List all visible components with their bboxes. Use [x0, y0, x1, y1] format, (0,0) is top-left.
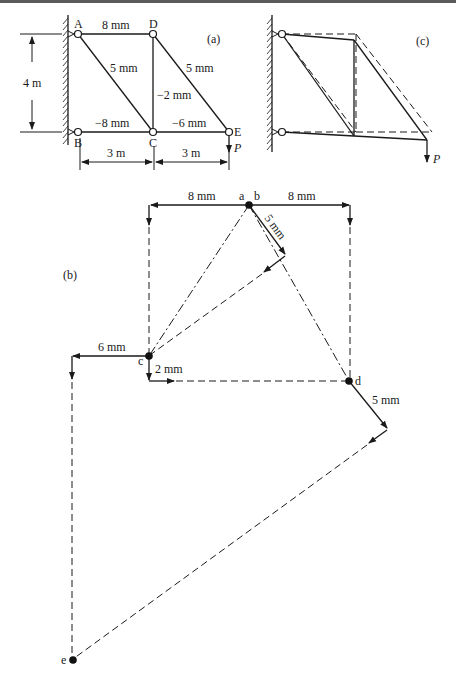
- label-point-e: e: [61, 653, 66, 667]
- label-point-d: d: [355, 374, 361, 388]
- joint-c-a: [279, 31, 286, 38]
- joint-d: [150, 31, 157, 38]
- joint-a: [75, 31, 82, 38]
- label-point-a: a: [239, 189, 245, 203]
- label-member-bc: −8 mm: [95, 116, 130, 130]
- wall-support-c: [267, 15, 278, 152]
- deformed-shape: [282, 34, 427, 140]
- point-d: [345, 377, 353, 385]
- label-vector-a-left: 8 mm: [188, 189, 216, 203]
- label-point-c: c: [138, 354, 143, 368]
- figure-b-williot-diagram: 8 mm 8 mm 5 mm 6 mm 2 mm 5 mm: [61, 189, 400, 667]
- perp-arrow-b-diag: [264, 256, 285, 272]
- joint-b: [75, 129, 82, 136]
- label-height: 4 m: [23, 76, 42, 90]
- wall-support-a: [63, 15, 74, 145]
- perp-line-de: [73, 445, 367, 659]
- perp-line-b-diag: [150, 274, 262, 355]
- height-dimension: 4 m: [20, 34, 62, 132]
- label-vector-c-left: 6 mm: [98, 340, 126, 354]
- point-e: [69, 656, 77, 664]
- figure-c-label: (c): [416, 34, 429, 48]
- figure-a-label: (a): [207, 32, 220, 46]
- label-member-ac: 5 mm: [110, 61, 138, 75]
- displacement-line-bd: [249, 205, 349, 381]
- label-load-a: P: [233, 141, 242, 155]
- label-joint-d: D: [149, 17, 158, 31]
- figure-c-deformed-truss: P (c): [267, 15, 441, 166]
- undeformed-shape: [282, 34, 432, 132]
- label-load-c: P: [432, 152, 441, 166]
- label-span-2: 3 m: [182, 146, 201, 160]
- label-member-de: 5 mm: [186, 61, 214, 75]
- label-member-ad: 8 mm: [102, 18, 130, 32]
- label-vector-b-right: 8 mm: [288, 189, 316, 203]
- label-span-1: 3 m: [107, 146, 126, 160]
- label-joint-a: A: [74, 17, 83, 31]
- label-joint-c: C: [149, 136, 157, 150]
- joint-c-b: [279, 129, 286, 136]
- figure-a-truss: A D B C E 8 mm 5 mm −2 mm 5 mm −8 mm −6 …: [20, 15, 242, 170]
- perp-arrow-d-diag: [369, 430, 387, 443]
- point-c: [145, 352, 153, 360]
- label-point-b: b: [254, 189, 260, 203]
- joint-e: [226, 129, 233, 136]
- figure-b-label: (b): [63, 268, 77, 282]
- label-joint-b: B: [74, 136, 82, 150]
- label-vector-d-diag: 5 mm: [372, 393, 400, 407]
- label-vector-c-down: 2 mm: [155, 362, 183, 376]
- point-ab: [245, 201, 253, 209]
- label-joint-e: E: [234, 125, 241, 139]
- joint-c: [150, 129, 157, 136]
- label-member-dc: −2 mm: [157, 88, 192, 102]
- displacement-line-ac: [149, 205, 249, 356]
- label-member-ce: −6 mm: [172, 116, 207, 130]
- williot-diagram-figure: A D B C E 8 mm 5 mm −2 mm 5 mm −8 mm −6 …: [0, 0, 456, 678]
